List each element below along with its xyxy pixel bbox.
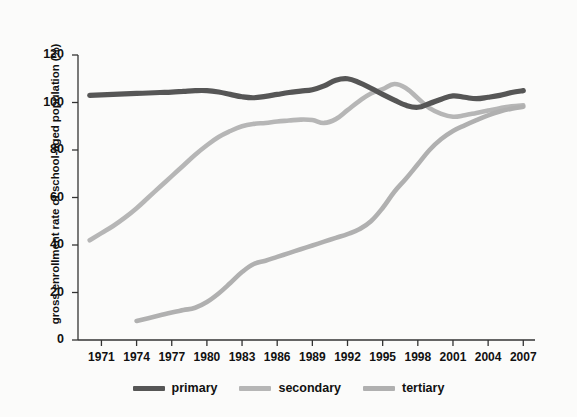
x-tick-label: 1986	[257, 350, 297, 364]
legend-item-secondary[interactable]: secondary	[239, 382, 341, 395]
legend-swatch-icon	[363, 386, 395, 391]
legend-swatch-icon	[239, 386, 271, 391]
legend-label: secondary	[278, 382, 341, 395]
x-tick-label: 1977	[152, 350, 192, 364]
series-line-primary	[90, 79, 524, 108]
y-tick-label: 80	[34, 142, 64, 156]
legend-item-tertiary[interactable]: tertiary	[363, 382, 444, 395]
x-tick-label: 2004	[468, 350, 508, 364]
legend-item-primary[interactable]: primary	[133, 382, 218, 395]
x-tick-label: 1992	[328, 350, 368, 364]
x-tick-label: 2007	[503, 350, 543, 364]
legend-label: tertiary	[402, 382, 444, 395]
y-tick-label: 100	[34, 95, 64, 109]
legend-label: primary	[172, 382, 218, 395]
x-tick-label: 1971	[81, 350, 121, 364]
x-tick-label: 1998	[398, 350, 438, 364]
y-tick-label: 0	[34, 332, 64, 346]
x-tick-label: 1983	[222, 350, 262, 364]
x-tick-label: 1989	[292, 350, 332, 364]
series-line-secondary	[90, 84, 524, 240]
y-tick-label: 60	[34, 190, 64, 204]
y-tick-label: 20	[34, 285, 64, 299]
legend-swatch-icon	[133, 386, 165, 391]
x-tick-label: 1980	[187, 350, 227, 364]
chart-container: gross enrollment rate of school-aged pop…	[0, 0, 577, 417]
y-tick-label: 120	[34, 47, 64, 61]
x-tick-label: 1974	[117, 350, 157, 364]
series-line-tertiary	[137, 107, 524, 321]
data-series-group	[90, 79, 524, 321]
x-tick-label: 2001	[433, 350, 473, 364]
y-tick-label: 40	[34, 237, 64, 251]
chart-legend: primarysecondarytertiary	[0, 382, 577, 395]
x-tick-label: 1995	[363, 350, 403, 364]
